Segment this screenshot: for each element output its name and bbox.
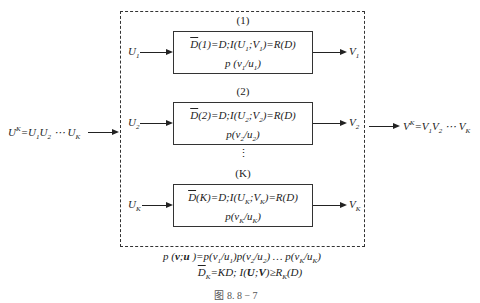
arrow-head-in-1 [166,49,173,55]
component-box-2: D(2)=D;I(U2;V2)=R(D) p(v2/u2) [173,102,313,145]
output-arrow-line [369,126,393,127]
joint-probability-formula: p (v;u )=p(v1/u1)p(v2/u2) … p(vK/uK) [92,250,392,265]
arrow-head-out-1 [340,49,347,55]
arrow-line-in-k [142,205,166,206]
component-box-k: D(K)=D;I(UK;VK)=R(D) p(vK/uK) [173,184,313,227]
box-prob-k: p(vK/uK) [174,209,312,228]
input-arrow-head [112,129,119,135]
box-formula-k: D(K)=D;I(UK;VK)=R(D) [174,190,312,209]
arrow-head-out-k [340,202,347,208]
box-prob-1: p (v1/u1) [174,56,312,75]
output-arrow-head [393,123,400,129]
arrow-head-out-2 [340,120,347,126]
component-output-k: VK [349,198,360,213]
arrow-line-out-k [313,205,340,206]
box-formula-1: D(1)=D;I(U1;V1)=R(D) [174,37,312,56]
component-index-1: (1) [223,14,263,26]
figure-caption: 图 8. 8 − 7 [186,287,286,302]
arrow-line-out-2 [313,123,340,124]
arrow-line-in-1 [140,52,166,53]
component-index-2: (2) [223,85,263,97]
component-box-1: D(1)=D;I(U1;V1)=R(D) p (v1/u1) [173,31,313,74]
input-arrow-line [88,132,112,133]
box-formula-2: D(2)=D;I(U2;V2)=R(D) [174,108,312,127]
component-input-k: UK [128,198,141,213]
component-output-1: V1 [349,45,359,60]
ellipsis: ⋮ [223,148,263,158]
component-index-k: (K) [223,167,263,179]
arrow-head-in-k [166,202,173,208]
arrow-line-in-2 [140,123,166,124]
component-input-1: U1 [128,45,139,60]
total-distortion-formula: DK=KD; I(U;V)≥RK(D) [100,266,400,281]
arrow-line-out-1 [313,52,340,53]
arrow-head-in-2 [166,120,173,126]
component-input-2: U2 [128,116,139,131]
box-prob-2: p(v2/u2) [174,127,312,146]
component-output-2: V2 [349,116,359,131]
output-sequence-label: VK=V1V2 ⋯ VK [403,119,470,135]
input-sequence-label: UK=U1U2 ⋯ UK [8,125,80,141]
